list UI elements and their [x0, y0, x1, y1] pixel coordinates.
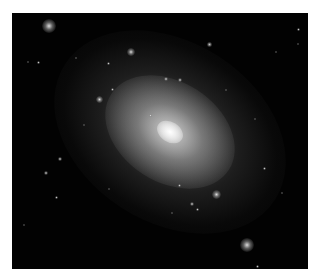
star-source — [263, 167, 266, 170]
star-source — [256, 265, 259, 268]
star-source — [96, 96, 103, 103]
star-source — [27, 61, 29, 63]
star-source — [178, 184, 181, 187]
star-source — [107, 62, 110, 65]
star-source — [171, 212, 173, 214]
star-source — [42, 19, 56, 33]
star-source — [196, 208, 199, 211]
star-source — [281, 192, 283, 194]
star-source — [127, 48, 135, 56]
star-source — [178, 78, 182, 82]
star-source — [254, 118, 256, 120]
star-source — [240, 238, 254, 252]
star-source — [164, 77, 168, 81]
star-source — [225, 89, 227, 91]
star-source — [297, 43, 299, 45]
star-source — [297, 28, 300, 31]
star-source — [23, 224, 25, 226]
star-source — [75, 57, 77, 59]
star-source — [37, 61, 40, 64]
star-source — [83, 124, 85, 126]
star-source — [44, 171, 48, 175]
star-source — [55, 196, 58, 199]
star-source — [275, 51, 277, 53]
star-source — [212, 190, 221, 199]
star-source — [149, 114, 152, 117]
star-source — [207, 42, 212, 47]
star-source — [190, 202, 194, 206]
star-source — [111, 88, 114, 91]
galaxy-image — [12, 13, 308, 269]
star-source — [58, 157, 62, 161]
star-source — [108, 188, 110, 190]
